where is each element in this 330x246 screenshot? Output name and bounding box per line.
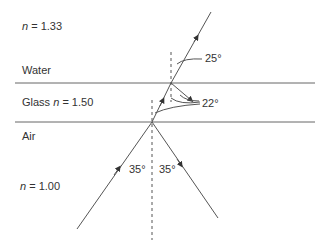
water-arrow-icon	[194, 37, 197, 42]
air-label: Air	[22, 130, 35, 142]
water-index-label: n = 1.33	[22, 20, 62, 32]
glass-label: Glass n = 1.50	[22, 96, 93, 108]
angle-water-label: 25°	[205, 52, 222, 64]
water-label: Water	[22, 64, 51, 76]
n-value: = 1.33	[31, 20, 62, 32]
internal-reflected-ray	[171, 83, 191, 100]
n-symbol: n	[20, 180, 26, 192]
incident-arrow-icon	[114, 168, 119, 175]
n-value: = 1.50	[62, 96, 93, 108]
reflected-arrow-icon	[177, 159, 181, 165]
angle-reflected-label: 35°	[159, 163, 176, 175]
incident-ray	[77, 122, 152, 229]
angle-pointer-22-c	[155, 104, 200, 113]
ray-diagram-graphic	[0, 0, 330, 246]
glass-arrow-icon	[160, 100, 163, 106]
angle-pointer-22-b	[180, 95, 199, 101]
angle-incident-label: 35°	[129, 163, 146, 175]
refraction-diagram: n = 1.33 Water Glass n = 1.50 Air n = 1.…	[0, 0, 330, 246]
angle-glass-label: 22°	[202, 97, 219, 109]
refracted-ray-water	[171, 12, 211, 83]
glass-name: Glass	[22, 96, 50, 108]
n-value: = 1.00	[29, 180, 60, 192]
n-symbol: n	[22, 20, 28, 32]
angle-pointer-25	[177, 59, 202, 64]
n-symbol: n	[53, 96, 59, 108]
air-index-label: n = 1.00	[20, 180, 60, 192]
